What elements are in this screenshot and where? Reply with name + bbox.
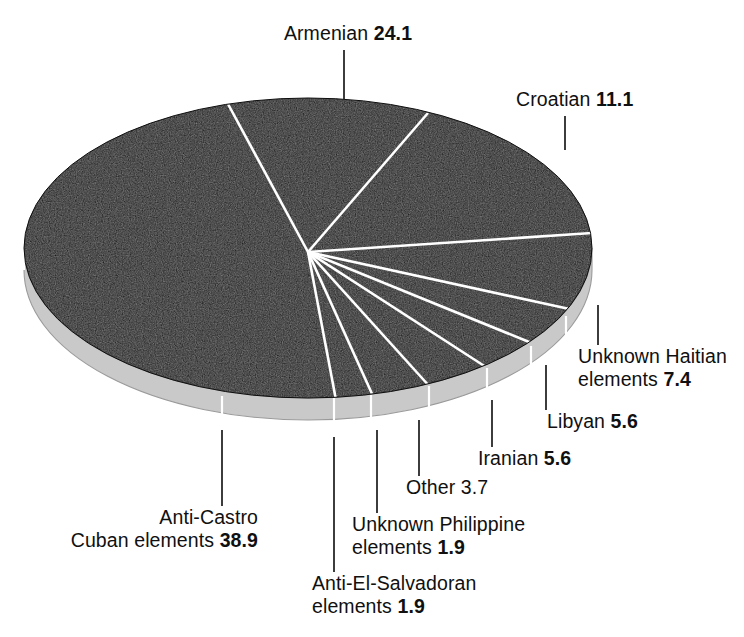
label-anti-castro-line2: Cuban elements (71, 529, 214, 551)
pie-top-face (24, 98, 592, 398)
label-anti-el-salvadoran-elements: Anti-El-Salvadoran elements 1.9 (312, 572, 476, 618)
label-iranian-value: 5.6 (544, 447, 571, 469)
label-iranian-name: Iranian (478, 447, 538, 469)
label-armenian-name: Armenian (284, 22, 368, 44)
label-croatian: Croatian 11.1 (516, 88, 633, 111)
label-croatian-value: 11.1 (596, 88, 633, 110)
label-armenian: Armenian 24.1 (248, 22, 448, 45)
label-armenian-value: 24.1 (374, 22, 412, 44)
label-libyan-value: 5.6 (611, 410, 638, 432)
label-unknown-haitian-line1: Unknown Haitian (578, 345, 727, 368)
label-unknown-haitian-line2: elements (578, 368, 658, 390)
label-iranian: Iranian 5.6 (478, 447, 571, 470)
label-unknown-philippine-line1: Unknown Philippine (352, 513, 525, 536)
label-libyan: Libyan 5.6 (547, 410, 638, 433)
label-anti-el-salvadoran-line2: elements (312, 595, 392, 617)
pie-chart: Armenian 24.1 Croatian 11.1 Unknown Hait… (0, 0, 744, 637)
label-unknown-philippine-line2: elements (352, 536, 432, 558)
label-anti-el-salvadoran-line1: Anti-El-Salvadoran (312, 572, 476, 595)
label-anti-castro-cuban-elements: Anti-Castro Cuban elements 38.9 (18, 506, 258, 552)
label-unknown-philippine-value: 1.9 (437, 536, 464, 558)
label-anti-castro-line1: Anti-Castro (18, 506, 258, 529)
label-unknown-philippine-elements: Unknown Philippine elements 1.9 (352, 513, 525, 559)
label-other-value: 3.7 (461, 476, 488, 498)
label-other-name: Other (406, 476, 455, 498)
label-anti-el-salvadoran-value: 1.9 (397, 595, 424, 617)
label-unknown-haitian-elements: Unknown Haitian elements 7.4 (578, 345, 727, 391)
label-croatian-name: Croatian (516, 88, 591, 110)
label-unknown-haitian-value: 7.4 (663, 368, 690, 390)
label-libyan-name: Libyan (547, 410, 605, 432)
label-other: Other 3.7 (406, 476, 488, 499)
label-anti-castro-value: 38.9 (220, 529, 258, 551)
